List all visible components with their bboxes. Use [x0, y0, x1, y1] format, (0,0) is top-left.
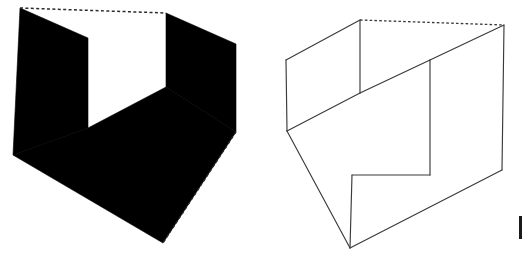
right-panel-right-edge	[502, 25, 504, 170]
left-panel-left-edge	[286, 60, 287, 131]
top-hidden-edge-dashed	[360, 20, 504, 25]
page-edge-mark	[519, 216, 522, 239]
left-panel-bottom-edge	[287, 93, 360, 131]
front-lower-vertical-edge	[350, 175, 352, 248]
figure-svg	[0, 0, 526, 264]
left-panel-top-edge	[286, 20, 360, 60]
figure-canvas	[0, 0, 526, 264]
right-panel-inner-edge	[430, 25, 504, 60]
top-hidden-edge-dashed	[20, 8, 166, 13]
left-figure	[13, 8, 236, 243]
floor-left-edge	[287, 131, 350, 248]
right-figure	[286, 20, 504, 248]
step-riser-edge	[360, 60, 430, 93]
floor-front-edge	[350, 170, 502, 248]
